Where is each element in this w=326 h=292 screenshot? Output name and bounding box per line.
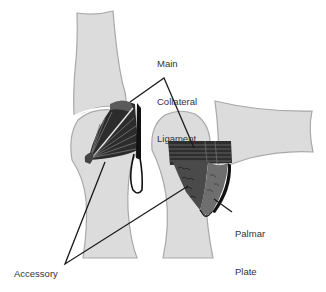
label-main-collateral-ligament: Main Collateral Ligament [157, 33, 197, 158]
label-palmar-plate: Palmar Plate [235, 203, 265, 291]
label-accessory-collateral-ligament: Accessory Collateral Ligament [14, 243, 58, 292]
left-upper-bone [74, 11, 126, 115]
